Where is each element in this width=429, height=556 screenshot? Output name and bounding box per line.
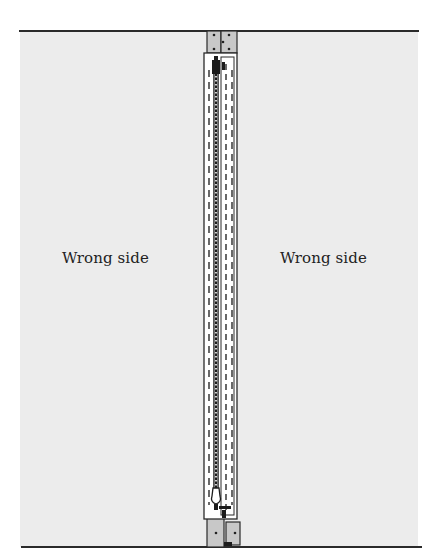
zipper-stop-mark bbox=[224, 542, 232, 546]
zipper-illustration bbox=[0, 0, 429, 556]
seam-allowance-top bbox=[207, 31, 237, 53]
seam-allowance-bottom bbox=[207, 518, 240, 547]
